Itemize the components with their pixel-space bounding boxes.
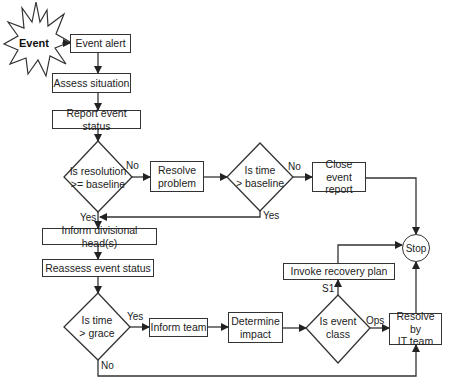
edge-label-time-baseline-no: No <box>288 161 301 172</box>
node-label: Close event <box>313 158 365 183</box>
node-label: report <box>325 183 352 196</box>
node-label: Inform team <box>150 321 206 334</box>
edge-label-resolution-no: No <box>126 160 139 171</box>
node-inform-divisional-heads[interactable]: Inform divisional head(s) <box>42 228 157 245</box>
decision-event-class[interactable]: Is event class <box>308 314 368 342</box>
node-label: problem <box>158 177 196 190</box>
node-label: Inform divisional head(s) <box>43 224 156 249</box>
node-label: Report event status <box>53 107 140 132</box>
decision-time-grace[interactable]: Is time > grace <box>66 313 128 341</box>
node-invoke-recovery-plan[interactable]: Invoke recovery plan <box>283 263 395 280</box>
node-label: IT team <box>398 335 433 348</box>
decision-line-1: Is time <box>82 314 113 327</box>
edge-label-grace-yes: Yes <box>127 311 143 322</box>
edge-label-resolution-yes: Yes <box>80 212 96 223</box>
node-report-event-status[interactable]: Report event status <box>52 110 141 129</box>
node-label: Determine <box>231 315 279 328</box>
decision-line-1: Is event <box>320 315 357 328</box>
edge-label-class-s1: S1 <box>322 283 334 294</box>
node-determine-impact[interactable]: Determine impact <box>228 312 283 343</box>
node-label: Invoke recovery plan <box>291 265 388 278</box>
node-label: Resolve by <box>390 310 441 335</box>
decision-line-2: >= baseline <box>71 178 125 191</box>
start-event-label: Event <box>19 37 49 49</box>
edge-label-class-ops: Ops <box>366 315 384 326</box>
node-reassess-event-status[interactable]: Reassess event status <box>42 259 154 277</box>
node-event-alert[interactable]: Event alert <box>70 34 131 53</box>
decision-line-2: class <box>326 328 350 341</box>
node-close-event-report[interactable]: Close event report <box>312 162 366 192</box>
decision-line-1: Is time <box>245 164 276 177</box>
node-stop[interactable]: Stop <box>402 234 430 262</box>
node-label: Resolve <box>158 164 196 177</box>
node-label: Reassess event status <box>45 262 151 275</box>
node-label: Stop <box>406 243 427 254</box>
decision-line-1: Is resolution <box>70 165 127 178</box>
node-label: impact <box>240 328 271 341</box>
decision-line-2: > baseline <box>236 177 284 190</box>
node-label: Event alert <box>75 37 125 50</box>
node-resolve-by-it-team[interactable]: Resolve by IT team <box>389 313 442 345</box>
decision-time-baseline[interactable]: Is time > baseline <box>229 163 291 191</box>
node-resolve-problem[interactable]: Resolve problem <box>150 161 204 192</box>
node-label: Assess situation <box>54 77 130 90</box>
decision-line-2: > grace <box>79 327 114 340</box>
edge-label-grace-no: No <box>101 360 114 371</box>
node-inform-team[interactable]: Inform team <box>149 318 208 337</box>
decision-resolution[interactable]: Is resolution >= baseline <box>66 164 130 192</box>
node-assess-situation[interactable]: Assess situation <box>52 73 131 93</box>
edge-label-time-baseline-yes: Yes <box>263 210 279 221</box>
